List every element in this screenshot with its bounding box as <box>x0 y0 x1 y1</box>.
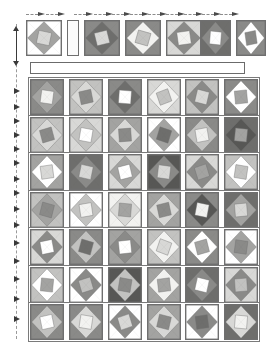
grid-block-r3-c3 <box>147 192 181 228</box>
top-guide-dash <box>46 14 58 16</box>
grid-block-r3-c1 <box>69 192 103 228</box>
grid-block-r1-c4 <box>185 117 219 153</box>
grid-block-r0-c5 <box>224 79 258 115</box>
grid-block-r6-c5 <box>224 304 258 340</box>
grid-block-r0-c0 <box>30 79 64 115</box>
grid-block-r4-c5 <box>224 229 258 265</box>
header-block-0 <box>26 20 62 56</box>
grid-block-r0-c1 <box>69 79 103 115</box>
header-block-5 <box>200 20 231 56</box>
grid-block-r2-c3 <box>147 154 181 190</box>
grid-block-r6-c0 <box>30 304 64 340</box>
arrow-right-icon <box>14 176 20 182</box>
grid-block-r2-c0 <box>30 154 64 190</box>
top-guide-dash <box>202 14 214 16</box>
arrow-right-icon <box>14 104 20 110</box>
arrow-right-icon <box>38 12 45 16</box>
arrow-right-icon <box>14 240 20 246</box>
measure-arrow-tip <box>13 26 19 31</box>
header-block-6 <box>236 20 266 56</box>
grid-block-r2-c5 <box>224 154 258 190</box>
arrow-right-icon <box>14 118 20 124</box>
header-block-4 <box>166 20 202 56</box>
grid-block-r5-c2 <box>108 267 142 303</box>
arrow-right-icon <box>14 190 20 196</box>
grid-block-r6-c1 <box>69 304 103 340</box>
grid-block-r6-c4 <box>185 304 219 340</box>
quilt-layout-canvas <box>0 0 267 355</box>
grid-block-r4-c4 <box>185 229 219 265</box>
header-block-3 <box>125 20 161 56</box>
grid-block-r0-c2 <box>108 79 142 115</box>
grid-block-r2-c4 <box>185 154 219 190</box>
top-guide-dash <box>220 14 232 16</box>
grid-block-r6-c3 <box>147 304 181 340</box>
arrow-right-icon <box>232 12 239 16</box>
header-block-2 <box>84 20 120 56</box>
grid-block-r4-c3 <box>147 229 181 265</box>
grid-block-r1-c0 <box>30 117 64 153</box>
grid-block-r1-c5 <box>224 117 258 153</box>
grid-block-r2-c1 <box>69 154 103 190</box>
grid-block-r4-c1 <box>69 229 103 265</box>
arrow-right-icon <box>14 160 20 166</box>
measure-bar <box>16 30 17 62</box>
arrow-right-icon <box>14 258 20 264</box>
arrow-right-icon <box>14 146 20 152</box>
header-filler-strip <box>67 20 79 56</box>
top-guide-dash <box>166 14 178 16</box>
grid-block-r6-c2 <box>108 304 142 340</box>
measure-arrow-tip <box>13 61 19 66</box>
grid-block-r5-c5 <box>224 267 258 303</box>
grid-block-r4-c2 <box>108 229 142 265</box>
top-guide-dash <box>148 14 160 16</box>
grid-block-r3-c4 <box>185 192 219 228</box>
grid-block-r1-c1 <box>69 117 103 153</box>
arrow-right-icon <box>14 132 20 138</box>
arrow-right-icon <box>58 12 65 16</box>
arrow-right-icon <box>14 276 20 282</box>
empty-sashing-strip <box>30 62 245 74</box>
top-guide-dash <box>94 14 106 16</box>
top-guide-dash <box>74 14 86 16</box>
grid-block-r5-c4 <box>185 267 219 303</box>
top-guide-dash <box>130 14 142 16</box>
arrow-right-icon <box>14 316 20 322</box>
grid-block-r3-c5 <box>224 192 258 228</box>
grid-block-r2-c2 <box>108 154 142 190</box>
top-guide-dash <box>112 14 124 16</box>
arrow-right-icon <box>14 296 20 302</box>
grid-block-r5-c1 <box>69 267 103 303</box>
grid-block-r3-c0 <box>30 192 64 228</box>
arrow-right-icon <box>14 222 20 228</box>
arrow-right-icon <box>14 88 20 94</box>
arrow-right-icon <box>86 12 93 16</box>
grid-block-r0-c4 <box>185 79 219 115</box>
grid-block-r1-c3 <box>147 117 181 153</box>
grid-block-r0-c3 <box>147 79 181 115</box>
top-guide-dash <box>26 14 38 16</box>
grid-block-r5-c0 <box>30 267 64 303</box>
arrow-right-icon <box>14 206 20 212</box>
grid-block-r3-c2 <box>108 192 142 228</box>
top-guide-dash <box>184 14 196 16</box>
grid-block-r1-c2 <box>108 117 142 153</box>
grid-block-r4-c0 <box>30 229 64 265</box>
grid-block-r5-c3 <box>147 267 181 303</box>
